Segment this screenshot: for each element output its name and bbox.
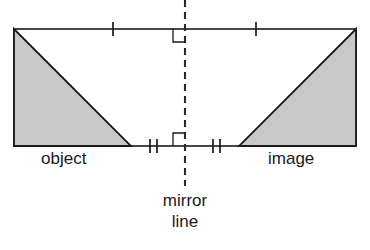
image-triangle — [239, 29, 356, 146]
mirror-line-label: mirror line — [139, 190, 231, 232]
right-angle-marker-top-icon — [173, 29, 185, 42]
object-triangle — [14, 29, 131, 146]
image-label: image — [268, 149, 314, 169]
mirror-line-label-word2: line — [139, 211, 231, 232]
reflection-diagram: object image mirror line — [0, 0, 370, 250]
object-label: object — [41, 149, 86, 169]
right-angle-marker-bottom-icon — [173, 133, 185, 146]
mirror-line-label-word1: mirror — [139, 190, 231, 211]
